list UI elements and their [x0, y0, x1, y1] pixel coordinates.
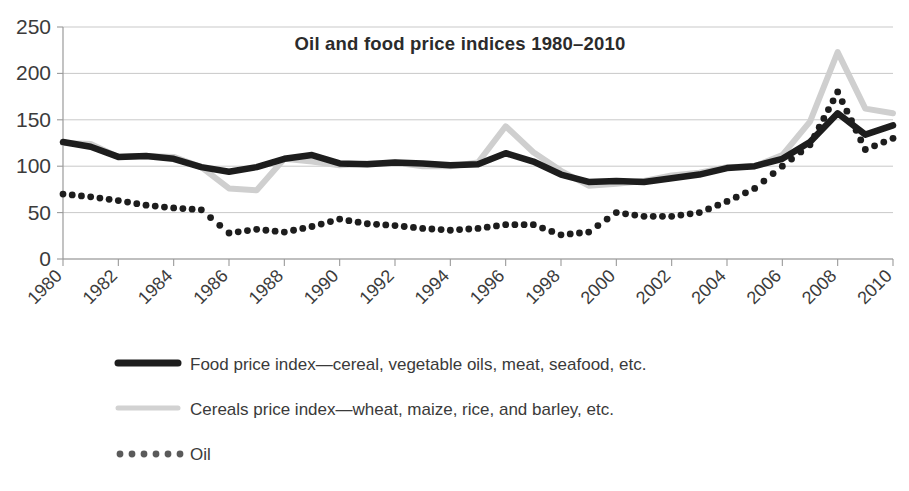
oil-data-dot — [834, 89, 841, 96]
oil-data-dot — [299, 225, 306, 232]
oil-data-dot — [830, 97, 837, 104]
oil-data-dot — [714, 202, 721, 209]
oil-data-dot — [244, 227, 251, 234]
oil-data-dot — [502, 221, 509, 228]
oil-data-dot — [659, 213, 666, 220]
y-tick-label-100: 100 — [16, 154, 51, 177]
oil-data-dot — [613, 209, 620, 216]
oil-data-dot — [198, 206, 205, 213]
oil-data-dot — [641, 213, 648, 220]
oil-data-dot — [558, 231, 565, 238]
oil-data-dot — [484, 224, 491, 231]
oil-data-dot — [170, 205, 177, 212]
oil-data-dot — [705, 205, 712, 212]
oil-data-dot — [668, 213, 675, 220]
y-tick-label-150: 150 — [16, 108, 51, 131]
oil-data-dot — [364, 220, 371, 227]
oil-data-dot — [281, 229, 288, 236]
oil-data-dot — [143, 202, 150, 209]
oil-data-dot — [207, 214, 214, 221]
oil-data-dot — [788, 156, 795, 163]
chart-figure: 050100150200250 198019821984198619881990… — [0, 0, 909, 491]
oil-food-price-index-chart: 050100150200250 198019821984198619881990… — [0, 0, 909, 491]
oil-data-dot — [465, 226, 472, 233]
oil-data-dot — [724, 198, 731, 205]
oil-data-dot — [226, 230, 233, 237]
oil-data-dot — [327, 218, 334, 225]
oil-data-dot — [456, 226, 463, 233]
oil-data-dot — [631, 212, 638, 219]
oil-data-dot — [760, 178, 767, 185]
oil-data-dot — [548, 228, 555, 235]
oil-data-dot — [825, 106, 832, 113]
oil-data-dot — [650, 213, 657, 220]
oil-data-dot — [751, 185, 758, 192]
oil-data-dot — [594, 222, 601, 229]
oil-data-dot — [60, 191, 67, 198]
oil-data-dot — [857, 137, 864, 144]
oil-data-dot — [622, 210, 629, 217]
oil-data-dot — [848, 117, 855, 124]
oil-data-dot — [871, 142, 878, 149]
oil-data-dot — [382, 222, 389, 229]
oil-data-dot — [428, 226, 435, 233]
oil-data-dot — [392, 222, 399, 229]
oil-data-dot — [742, 189, 749, 196]
oil-data-dot — [733, 194, 740, 201]
oil-data-dot — [401, 223, 408, 230]
legend-oil-dot — [165, 451, 172, 458]
oil-data-dot — [373, 221, 380, 228]
oil-data-dot — [807, 141, 814, 148]
oil-data-dot — [820, 115, 827, 122]
oil-data-dot — [890, 135, 897, 142]
oil-data-dot — [179, 205, 186, 212]
oil-data-dot — [853, 127, 860, 134]
oil-data-dot — [696, 209, 703, 216]
oil-data-dot — [839, 98, 846, 105]
oil-data-dot — [345, 217, 352, 224]
oil-data-dot — [604, 216, 611, 223]
oil-data-dot — [124, 199, 131, 206]
oil-data-dot — [216, 222, 223, 229]
oil-data-dot — [816, 124, 823, 131]
oil-data-dot — [811, 133, 818, 140]
chart-title: Oil and food price indices 1980–2010 — [294, 33, 625, 54]
legend-label-oil: Oil — [190, 445, 211, 464]
oil-data-dot — [677, 212, 684, 219]
oil-data-dot — [253, 226, 260, 233]
oil-data-dot — [511, 221, 518, 228]
oil-data-dot — [318, 221, 325, 228]
oil-data-dot — [797, 149, 804, 156]
legend-oil-dot — [153, 451, 160, 458]
y-tick-label-250: 250 — [16, 15, 51, 38]
oil-data-dot — [87, 193, 94, 200]
oil-data-dot — [521, 221, 528, 228]
oil-data-dot — [115, 197, 122, 204]
oil-data-dot — [419, 225, 426, 232]
legend-item-food: Food price index—cereal, vegetable oils,… — [118, 355, 646, 374]
oil-data-dot — [779, 163, 786, 170]
oil-data-dot — [133, 200, 140, 207]
oil-data-dot — [272, 228, 279, 235]
oil-data-dot — [78, 193, 85, 200]
y-tick-label-50: 50 — [28, 201, 51, 224]
oil-data-dot — [189, 206, 196, 213]
oil-data-dot — [96, 195, 103, 202]
oil-data-dot — [539, 225, 546, 232]
oil-data-dot — [106, 196, 113, 203]
legend-label-food: Food price index—cereal, vegetable oils,… — [190, 355, 646, 374]
legend-label-cereals: Cereals price index—wheat, maize, rice, … — [190, 400, 614, 419]
legend-oil-dot — [177, 451, 184, 458]
oil-data-dot — [438, 226, 445, 233]
y-tick-label-0: 0 — [39, 247, 51, 270]
oil-data-dot — [69, 192, 76, 199]
oil-data-dot — [475, 225, 482, 232]
oil-data-dot — [576, 230, 583, 237]
oil-data-dot — [585, 229, 592, 236]
oil-data-dot — [235, 228, 242, 235]
oil-data-dot — [161, 204, 168, 211]
legend-oil-dot — [117, 451, 124, 458]
oil-data-dot — [530, 221, 537, 228]
oil-data-dot — [567, 231, 574, 238]
oil-data-dot — [862, 146, 869, 153]
